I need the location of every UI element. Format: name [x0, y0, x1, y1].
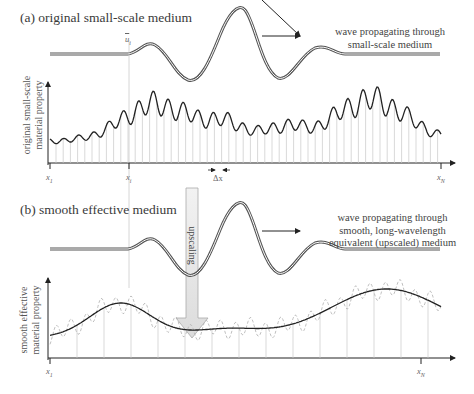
tick-xn-a: xN: [437, 172, 445, 184]
tick-xn-b: xN: [417, 366, 425, 378]
tick-x1-b: x1: [46, 366, 53, 378]
delta-x-label: Δx: [213, 173, 223, 183]
tick-x1-a: x1: [46, 172, 53, 184]
upscaling-label: upscaling: [187, 216, 198, 276]
sample-grid-b: [77, 290, 428, 358]
y-label-b: smooth effective material property: [18, 270, 42, 370]
wave-note-b: wave propagating through smooth, long-wa…: [325, 212, 460, 250]
panel-b-title: (b) smooth effective medium: [20, 202, 177, 218]
diagram-canvas: [0, 0, 474, 394]
small-scale-curve: [50, 87, 441, 144]
propagation-arrow-a: [262, 0, 300, 36]
tick-xi-a: xi: [126, 172, 131, 184]
y-label-a: original small-scale material property: [21, 60, 45, 170]
wave-note-a: wave propagating through small-scale med…: [330, 26, 450, 51]
wave-marker-label: ui: [125, 34, 131, 46]
panel-a-title: (a) original small-scale medium: [20, 10, 192, 26]
